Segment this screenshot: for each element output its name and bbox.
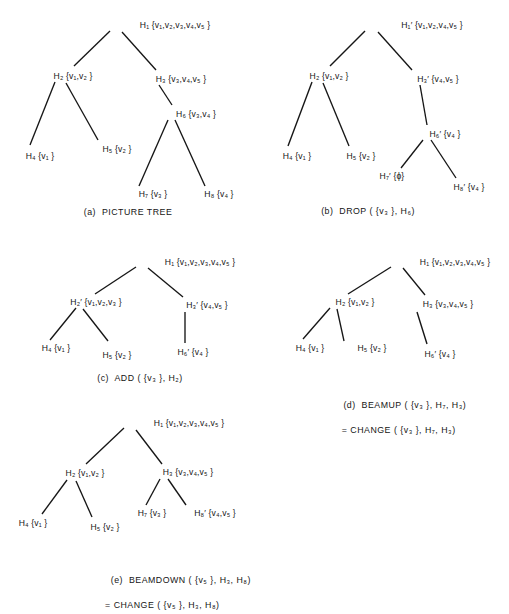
edge-a-h1-h3	[122, 32, 156, 70]
node-b-h2: H₂ {v₁,v₂ }	[310, 72, 349, 81]
edge-e-h1-h2	[86, 428, 124, 464]
node-c-h2p: H₂′ {v₁,v₂,v₃ }	[70, 298, 121, 307]
edge-b-h1-h2	[330, 31, 365, 66]
edge-d-h2-h4	[303, 308, 330, 339]
caption-d: (d) BEAMUP ( {v₃ }, H₇, H₃) = CHANGE ( {…	[326, 386, 466, 461]
node-b-h5: H₅ {v₂ }	[346, 152, 375, 161]
node-e-h4: H₄ {v₁ }	[19, 519, 48, 528]
node-d-h2: H₂ {v₁,v₂ }	[336, 298, 375, 307]
node-a-h4: H₄ {v₁ }	[26, 152, 55, 161]
node-b-h7p: H₇′ {ϕ}	[380, 172, 405, 181]
edge-b-h2-h5	[323, 83, 349, 146]
edge-a-h3-h6	[159, 85, 172, 105]
node-e-h7: H₇ {v₃ }	[138, 509, 167, 518]
node-a-h3: H₃ {v₃,v₄,v₅ }	[156, 75, 206, 84]
node-c-h4: H₄ {v₁ }	[42, 344, 71, 353]
edge-d-h1-h2	[348, 267, 391, 294]
node-c-h5: H₅ {v₂ }	[102, 351, 131, 360]
node-e-h1: H₁ {v₁,v₂,v₃,v₄,v₅ }	[154, 419, 224, 428]
node-e-h8p: H₈′ {v₄,v₅ }	[194, 509, 236, 518]
edge-d-h1-h3	[403, 268, 425, 295]
node-a-h8: H₈ {v₄ }	[204, 190, 233, 199]
node-a-h5: H₅ {v₂ }	[102, 145, 131, 154]
edge-e-h3-h7	[146, 479, 160, 505]
node-e-h3: H₃ {v₃,v₄,v₅ }	[163, 468, 213, 477]
node-c-h3p: H₃′ {v₄,v₅ }	[186, 301, 228, 310]
edge-a-h2-h5	[66, 83, 98, 140]
edge-e-h2-h4	[42, 480, 67, 514]
node-d-h6p: H₆′ {v₄ }	[425, 350, 456, 359]
node-b-h8p: H₈′ {v₄ }	[453, 183, 484, 192]
edge-a-h6-h8	[175, 120, 205, 186]
node-a-h1: H₁ {v₁,v₂,v₃,v₄,v₅ }	[140, 21, 210, 30]
node-e-h5: H₅ {v₂ }	[90, 523, 119, 532]
edge-a-h1-h2	[74, 31, 110, 66]
node-e-h2: H₂ {v₁,v₂ }	[66, 469, 105, 478]
edge-c-h1-h3	[148, 268, 183, 297]
node-b-h3p: H₃′ {v₄,v₅ }	[417, 75, 459, 84]
edge-b-h6-h7	[401, 140, 423, 168]
edge-e-h1-h3	[136, 430, 162, 464]
edge-b-h1-h3	[378, 32, 412, 70]
caption-d-line1: (d) BEAMUP ( {v₃ }, H₇, H₃)	[343, 400, 466, 410]
caption-c: (c) ADD ( {v₃ }, H₂)	[97, 372, 182, 385]
caption-e-line2: = CHANGE ( {v₅ }, H₃, H₈)	[93, 599, 251, 612]
edge-e-h2-h5	[76, 481, 92, 517]
edge-b-h2-h4	[288, 82, 312, 146]
edge-a-h6-h7	[139, 120, 168, 186]
edge-a-h2-h4	[30, 82, 55, 145]
node-b-h4: H₄ {v₁ }	[283, 152, 312, 161]
node-c-h6p: H₆′ {v₄ }	[178, 348, 209, 357]
node-b-h1p: H₁′ {v₁,v₂,v₄,v₅ }	[401, 21, 463, 30]
caption-d-line2: = CHANGE ( {v₃ }, H₇, H₃)	[326, 424, 466, 437]
edge-e-h3-h8	[168, 479, 186, 505]
edge-c-h1-h2	[95, 267, 136, 294]
caption-e-line1: (e) BEAMDOWN ( {v₅ }, H₃, H₈)	[111, 575, 251, 585]
node-a-h6: H₆ {v₃,v₄ }	[176, 110, 216, 119]
caption-b: (b) DROP ( {v₃ }, H₆)	[321, 205, 415, 218]
edge-d-h3-h6	[417, 312, 427, 344]
edge-b-h3-h6	[420, 85, 427, 125]
node-d-h3: H₃ {v₃,v₄,v₅ }	[423, 300, 473, 309]
node-a-h2: H₂ {v₁,v₂ }	[54, 72, 93, 81]
edge-b-h6-h8	[431, 140, 456, 178]
node-d-h1: H₁ {v₁,v₂,v₃,v₄,v₅ }	[420, 258, 490, 267]
node-d-h5: H₅ {v₂ }	[357, 344, 386, 353]
node-a-h7: H₇ {v₃ }	[139, 190, 168, 199]
edge-c-h2-h5	[83, 309, 108, 341]
caption-e: (e) BEAMDOWN ( {v₅ }, H₃, H₈) = CHANGE (…	[93, 561, 251, 614]
edge-d-h2-h5	[337, 309, 344, 341]
node-d-h4: H₄ {v₁ }	[296, 344, 325, 353]
edge-c-h2-h4	[50, 308, 76, 340]
node-b-h6p: H₆′ {v₄ }	[430, 130, 461, 139]
node-c-h1: H₁ {v₁,v₂,v₃,v₄,v₅ }	[165, 258, 235, 267]
caption-a: (a) PICTURE TREE	[84, 206, 173, 219]
